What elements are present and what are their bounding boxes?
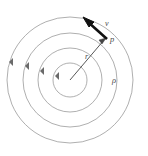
flow-direction-arrows-group <box>9 58 59 80</box>
flow-arrow-outermost <box>9 58 13 66</box>
vector-field-diagram <box>0 0 148 156</box>
point-label: p <box>110 35 114 44</box>
flow-arrow-outer-middle <box>25 62 29 70</box>
figure-container: v p r ρ <box>0 0 148 156</box>
flow-arrow-innermost <box>55 72 59 80</box>
rho-label: ρ <box>112 76 116 85</box>
velocity-label: v <box>105 20 109 28</box>
radius-label: r <box>85 53 88 61</box>
